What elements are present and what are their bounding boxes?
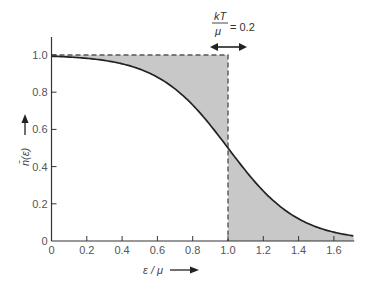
x-tick-label: 0.2 — [79, 244, 94, 256]
y-tick-label: 1.0 — [32, 49, 47, 61]
y-axis-ticks: 00.20.40.60.81.0 — [32, 49, 56, 247]
x-tick-label: 1.0 — [220, 244, 235, 256]
y-tick-label: 0.2 — [32, 198, 47, 210]
y-tick-label: 0.8 — [32, 86, 47, 98]
annot-numerator: kT — [214, 10, 228, 22]
x-tick-label: 1.6 — [326, 244, 341, 256]
y-axis-label: n̄(ε) — [19, 147, 31, 166]
annot-value: = 0.2 — [230, 21, 255, 33]
kt-annotation: kT μ = 0.2 — [210, 10, 255, 51]
y-tick-label: 0 — [41, 235, 47, 247]
shaded-region — [52, 55, 355, 241]
annot-denominator: μ — [214, 25, 221, 37]
x-tick-label: 0.8 — [185, 244, 200, 256]
y-axis-arrow-icon — [22, 114, 29, 135]
y-tick-label: 0.6 — [32, 123, 47, 135]
x-axis-label-text: ε / μ — [143, 264, 163, 276]
x-tick-label: 1.4 — [291, 244, 306, 256]
y-tick-label: 0.4 — [32, 161, 47, 173]
x-tick-label: 0 — [48, 244, 54, 256]
double-arrow-icon — [210, 43, 247, 51]
x-tick-label: 1.2 — [256, 244, 271, 256]
x-axis-arrow-icon — [170, 267, 199, 274]
x-tick-label: 0.4 — [114, 244, 129, 256]
fermi-dirac-chart: 00.20.40.60.81.01.21.41.6 00.20.40.60.81… — [0, 0, 371, 287]
y-axis-label-text: n̄(ε) — [19, 147, 31, 166]
x-tick-label: 0.6 — [150, 244, 165, 256]
